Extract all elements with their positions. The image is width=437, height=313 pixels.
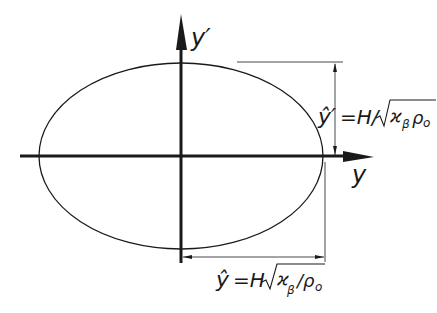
- yprime-axis-label: y′: [190, 24, 211, 52]
- svg-text:β: β: [401, 117, 410, 131]
- dimension-arrow-up-icon: [333, 63, 337, 72]
- horizontal-dimension-formula: ŷ =H ϰ β /ρ o: [215, 264, 325, 297]
- dimension-arrow-down-icon: [333, 146, 337, 155]
- dimension-arrow-right-icon: [315, 255, 324, 259]
- svg-text:ŷ′: ŷ′: [317, 104, 336, 129]
- yprime-axis-arrow-icon: [176, 14, 187, 50]
- svg-text:ŷ: ŷ: [215, 267, 230, 292]
- svg-text:=H: =H: [233, 268, 265, 292]
- y-axis-label: y: [351, 161, 367, 189]
- svg-text:/ρ: /ρ: [295, 270, 315, 291]
- svg-text:o: o: [423, 116, 430, 130]
- phase-ellipse-diagram: y′ y ŷ′ =H/ ϰ β ρ o ŷ =H ϰ β /ρ o: [0, 0, 437, 313]
- svg-text:β: β: [286, 283, 295, 297]
- svg-text:ϰ: ϰ: [389, 105, 402, 126]
- svg-text:o: o: [315, 280, 322, 294]
- svg-text:=H/: =H/: [340, 105, 381, 129]
- dimension-arrow-left-icon: [183, 255, 192, 259]
- vertical-dimension-formula: ŷ′ =H/ ϰ β ρ o: [317, 100, 436, 131]
